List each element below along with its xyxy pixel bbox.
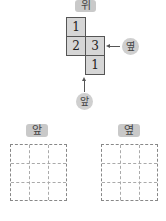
top-view-label: 위: [75, 0, 96, 12]
top-view-cell: 1: [66, 17, 86, 37]
top-view-cell: 2: [66, 36, 86, 56]
side-view-answer-grid[interactable]: [101, 144, 158, 201]
front-arrow-line: [84, 79, 85, 92]
front-marker: 앞: [76, 93, 93, 110]
side-view-label: 옆: [118, 124, 140, 137]
front-view-answer-grid[interactable]: [10, 144, 67, 201]
side-arrow-line: [108, 46, 120, 47]
front-view-label: 앞: [26, 124, 48, 137]
top-view-cell: 3: [85, 36, 105, 56]
side-marker: 옆: [122, 38, 139, 55]
top-view-cell: 1: [85, 55, 105, 75]
